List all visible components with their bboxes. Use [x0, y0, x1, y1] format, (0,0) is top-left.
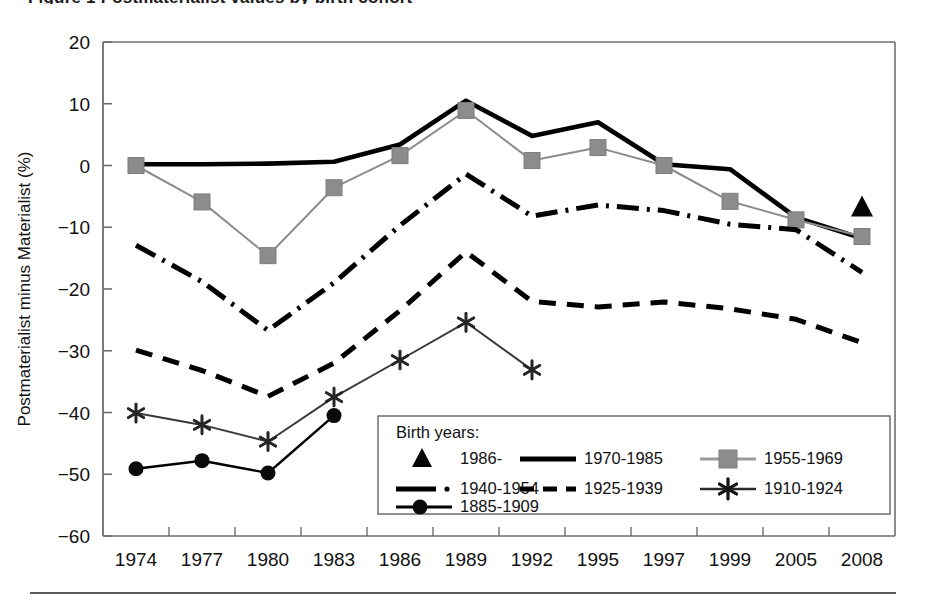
- y-tick-label: −10: [58, 217, 90, 238]
- legend-item-1955-1969[interactable]: 1955-1969: [700, 449, 843, 468]
- series-line: [136, 174, 862, 330]
- series-1925-1939: [136, 252, 862, 397]
- series-line: [136, 111, 862, 256]
- x-tick-label: 1989: [445, 549, 487, 570]
- x-tick-label: 1974: [115, 549, 158, 570]
- square-marker: [458, 103, 474, 119]
- bottom-divider: [30, 592, 896, 594]
- legend-item-label: 1925-1939: [584, 479, 663, 497]
- square-marker: [590, 140, 606, 156]
- star-marker: [326, 388, 342, 406]
- circle-marker: [261, 466, 276, 481]
- square-marker: [722, 193, 738, 209]
- star-marker: [458, 313, 474, 331]
- x-tick-label: 1977: [181, 549, 223, 570]
- star-marker: [524, 361, 540, 379]
- series-1955-1969: [128, 103, 870, 264]
- legend-title: Birth years:: [396, 423, 479, 441]
- legend-item-label: 1910-1924: [764, 479, 843, 497]
- square-marker: [194, 194, 210, 210]
- legend-item-label: 1970-1985: [584, 449, 663, 467]
- series-1970-1985: [136, 101, 862, 239]
- x-tick-label: 1986: [379, 549, 421, 570]
- circle-marker: [413, 500, 428, 515]
- line-chart-svg: 20100−10−20−30−40−50−60 1974197719801983…: [0, 0, 926, 609]
- y-tick-label: −50: [58, 464, 90, 485]
- square-marker: [656, 158, 672, 174]
- x-tick-label: 1992: [511, 549, 553, 570]
- y-tick-label: −20: [58, 279, 90, 300]
- series-line: [136, 416, 334, 473]
- y-tick-label: −40: [58, 403, 90, 424]
- series-line: [136, 252, 862, 397]
- dot-swatch: [444, 486, 449, 491]
- y-tick-label: 20: [69, 32, 90, 53]
- x-tick-label: 1997: [643, 549, 685, 570]
- x-axis-ticks: 1974197719801983198619891992199519971999…: [115, 527, 883, 570]
- x-tick-label: 1983: [313, 549, 355, 570]
- square-marker: [788, 212, 804, 228]
- square-marker: [260, 248, 276, 264]
- square-marker: [326, 180, 342, 196]
- series-1986-: [851, 195, 873, 216]
- x-tick-label: 1995: [577, 549, 619, 570]
- x-tick-label: 1980: [247, 549, 289, 570]
- y-axis-label: Postmaterialist minus Materialist (%): [15, 152, 34, 427]
- series-1885-1909: [129, 408, 342, 480]
- x-tick-label: 2005: [775, 549, 817, 570]
- star-marker: [260, 433, 276, 451]
- x-tick-label: 1999: [709, 549, 751, 570]
- circle-marker: [195, 453, 210, 468]
- legend: Birth years: 1986-1970-19851955-19691940…: [378, 416, 890, 515]
- square-marker: [392, 148, 408, 164]
- circle-marker: [327, 408, 342, 423]
- legend-item-label: 1885-1909: [460, 497, 539, 515]
- square-marker: [128, 158, 144, 174]
- legend-item-label: 1955-1969: [764, 449, 843, 467]
- y-tick-label: −30: [58, 341, 90, 362]
- series-1940-1954: [136, 174, 862, 330]
- y-tick-label: 0: [79, 156, 90, 177]
- legend-item-label: 1986-: [460, 449, 502, 467]
- series-line: [136, 101, 862, 239]
- square-marker: [719, 450, 737, 468]
- y-tick-label: 10: [69, 94, 90, 115]
- chart-figure: 20100−10−20−30−40−50−60 1974197719801983…: [0, 0, 926, 609]
- star-marker: [392, 351, 408, 369]
- y-tick-label: −60: [58, 526, 90, 547]
- x-tick-label: 2008: [841, 549, 883, 570]
- triangle-marker: [851, 195, 873, 216]
- square-marker: [524, 153, 540, 169]
- square-marker: [854, 229, 870, 245]
- circle-marker: [129, 461, 144, 476]
